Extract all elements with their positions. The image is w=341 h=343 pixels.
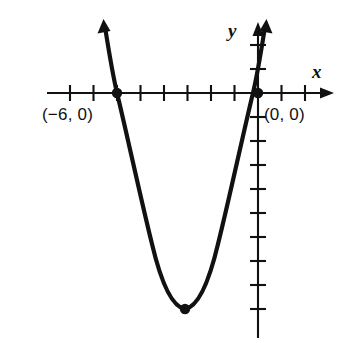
x-axis-label: x bbox=[312, 62, 322, 81]
x-axis-arrowhead bbox=[320, 88, 334, 99]
parabola-curve bbox=[106, 30, 265, 309]
x-axis-group bbox=[47, 85, 334, 101]
origin-label: (0, 0) bbox=[264, 106, 305, 123]
parabola-curve-group bbox=[98, 19, 273, 309]
x-intercept-left-dot bbox=[112, 88, 122, 98]
right-branch-arrowhead bbox=[260, 19, 273, 34]
vertex-dot bbox=[180, 304, 190, 314]
marked-points-group bbox=[112, 88, 263, 314]
left-branch-arrowhead bbox=[98, 19, 111, 34]
coordinate-plane-graphic bbox=[0, 0, 341, 343]
origin-dot bbox=[253, 88, 263, 98]
parabola-figure: y x (−6, 0) (0, 0) bbox=[0, 0, 341, 343]
y-axis-label: y bbox=[228, 21, 236, 40]
x-intercept-left-label: (−6, 0) bbox=[42, 106, 93, 123]
